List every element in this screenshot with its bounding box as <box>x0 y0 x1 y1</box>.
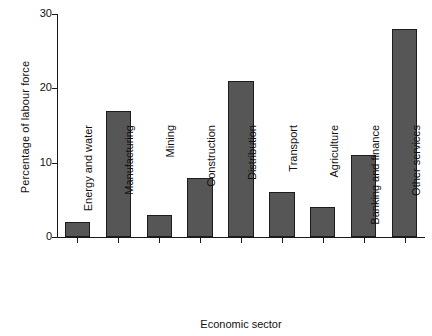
x-tick-mark <box>364 238 365 243</box>
x-category-label: Transport <box>287 125 300 245</box>
x-category-label: Banking and finance <box>369 125 382 245</box>
x-tick-mark <box>405 238 406 243</box>
x-category-label: Other services <box>410 125 423 245</box>
x-category-label: Distribution <box>246 125 259 245</box>
x-axis-title: Economic sector <box>57 318 425 330</box>
x-category-label: Agriculture <box>328 125 341 245</box>
y-tick-label: 10 <box>30 157 52 168</box>
x-tick-mark <box>282 238 283 243</box>
bar-chart: Percentage of labour force 0102030 Energ… <box>0 0 432 336</box>
y-tick-label: 30 <box>30 8 52 19</box>
x-category-label: Construction <box>205 125 218 245</box>
x-tick-mark <box>118 238 119 243</box>
x-tick-mark <box>159 238 160 243</box>
x-category-label: Mining <box>164 125 177 245</box>
x-tick-mark <box>200 238 201 243</box>
y-axis-tick-labels: 0102030 <box>30 0 52 336</box>
x-category-label: Manufacturing <box>123 125 136 245</box>
y-tick-label: 20 <box>30 82 52 93</box>
x-category-label: Energy and water <box>82 125 95 245</box>
x-tick-mark <box>241 238 242 243</box>
x-tick-mark <box>77 238 78 243</box>
y-tick-label: 0 <box>30 231 52 242</box>
x-tick-mark <box>323 238 324 243</box>
